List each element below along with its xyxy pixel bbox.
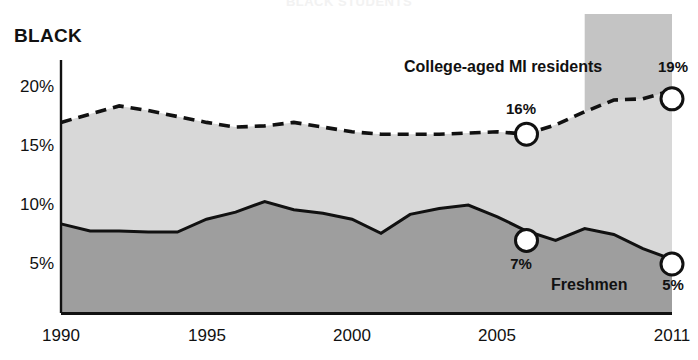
x-tick-2011: 2011 bbox=[654, 326, 691, 346]
freshmen-series-label: Freshmen bbox=[551, 276, 627, 294]
chart-container: BLACK STUDENTS BLACK 20% 15% 10% 5% 1990… bbox=[0, 0, 698, 360]
college-2006-label: 16% bbox=[506, 100, 536, 117]
freshmen-2011-label: 5% bbox=[662, 276, 684, 293]
x-tick-1990: 1990 bbox=[42, 326, 80, 346]
freshmen-2006-label: 7% bbox=[510, 255, 532, 272]
y-tick-15: 15% bbox=[20, 136, 54, 156]
chart-plot-area bbox=[0, 0, 698, 360]
college-2011-marker bbox=[661, 88, 683, 110]
x-tick-1995: 1995 bbox=[188, 326, 226, 346]
y-tick-5: 5% bbox=[29, 254, 54, 274]
y-tick-10: 10% bbox=[20, 195, 54, 215]
y-tick-20: 20% bbox=[20, 77, 54, 97]
freshmen-2011-marker bbox=[661, 253, 683, 275]
college-2011-label: 19% bbox=[658, 58, 688, 75]
freshmen-2006-marker bbox=[516, 229, 538, 251]
x-tick-2005: 2005 bbox=[478, 326, 516, 346]
college-2006-marker bbox=[516, 123, 538, 145]
college-series-label: College-aged MI residents bbox=[404, 58, 602, 76]
y-axis-tick-labels: 20% 15% 10% 5% bbox=[0, 0, 54, 360]
x-tick-2000: 2000 bbox=[333, 326, 371, 346]
